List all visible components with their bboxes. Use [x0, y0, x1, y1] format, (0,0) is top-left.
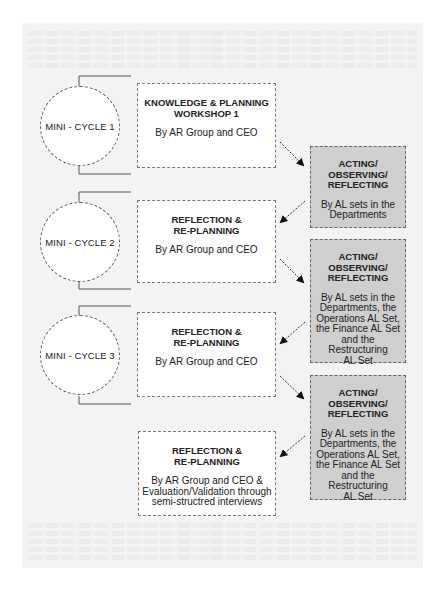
acting-box-3: ACTING/ OBSERVING/ REFLECTING By AL sets… — [310, 375, 406, 500]
sub-line: and the Restructuring — [311, 335, 405, 356]
planning-box-1: KNOWLEDGE & PLANNING WORKSHOP 1 By AR Gr… — [137, 83, 276, 168]
title-line: RE-PLANNING — [138, 226, 275, 237]
planning-box-3-sub: By AR Group and CEO — [138, 357, 275, 368]
sub-line: Departments, the — [311, 303, 405, 314]
title-line: REFLECTING — [311, 409, 405, 420]
sub-line: AL Set — [311, 492, 405, 503]
acting-box-1: ACTING/ OBSERVING/ REFLECTING By AL sets… — [310, 146, 406, 228]
sub-line: AL Set — [311, 356, 405, 367]
mini-cycle-2-circle: MINI - CYCLE 2 — [40, 202, 120, 282]
sub-line: the Finance AL Set — [311, 460, 405, 471]
planning-box-2: REFLECTION & RE-PLANNING By AR Group and… — [137, 200, 276, 283]
mini-cycle-2-label: MINI - CYCLE 2 — [45, 237, 115, 248]
planning-box-1-title: KNOWLEDGE & PLANNING WORKSHOP 1 — [138, 98, 275, 119]
sub-line: By AR Group and CEO & — [139, 476, 275, 487]
acting-box-3-sub: By AL sets in the Departments, the Opera… — [311, 429, 405, 503]
title-line: KNOWLEDGE & PLANNING — [138, 98, 275, 109]
faded-background-text-bottom — [22, 520, 423, 563]
planning-box-1-sub: By AR Group and CEO — [138, 128, 275, 139]
title-line: RE-PLANNING — [139, 457, 275, 468]
sub-line: the Finance AL Set — [311, 324, 405, 335]
planning-box-2-title: REFLECTION & RE-PLANNING — [138, 215, 275, 236]
mini-cycle-1-label: MINI - CYCLE 1 — [45, 121, 115, 132]
title-line: ACTING/ — [311, 252, 405, 263]
planning-box-4-title: REFLECTION & RE-PLANNING — [139, 446, 275, 467]
title-line: REFLECTING — [311, 273, 405, 284]
mini-cycle-1-circle: MINI - CYCLE 1 — [40, 86, 120, 166]
title-line: REFLECTION & — [139, 446, 275, 457]
acting-box-1-title: ACTING/ OBSERVING/ REFLECTING — [311, 159, 405, 191]
planning-box-3-title: REFLECTION & RE-PLANNING — [138, 327, 275, 348]
planning-box-3: REFLECTION & RE-PLANNING By AR Group and… — [137, 312, 276, 397]
mini-cycle-3-circle: MINI - CYCLE 3 — [40, 315, 120, 395]
title-line: ACTING/ — [311, 388, 405, 399]
sub-line: Departments, the — [311, 439, 405, 450]
planning-box-4: REFLECTION & RE-PLANNING By AR Group and… — [138, 431, 276, 516]
faded-background-text — [22, 28, 423, 71]
planning-box-4-sub: By AR Group and CEO & Evaluation/Validat… — [139, 476, 275, 508]
acting-box-3-title: ACTING/ OBSERVING/ REFLECTING — [311, 388, 405, 420]
title-line: ACTING/ — [311, 159, 405, 170]
sub-line: Departments — [311, 210, 405, 221]
acting-box-1-sub: By AL sets in the Departments — [311, 200, 405, 221]
title-line: REFLECTION & — [138, 327, 275, 338]
acting-box-2-title: ACTING/ OBSERVING/ REFLECTING — [311, 252, 405, 284]
sub-line: and the Restructuring — [311, 471, 405, 492]
acting-box-2: ACTING/ OBSERVING/ REFLECTING By AL sets… — [310, 239, 406, 363]
sub-line: semi-structred interviews — [139, 497, 275, 508]
title-line: REFLECTING — [311, 180, 405, 191]
title-line: WORKSHOP 1 — [138, 109, 275, 120]
acting-box-2-sub: By AL sets in the Departments, the Opera… — [311, 293, 405, 367]
title-line: RE-PLANNING — [138, 338, 275, 349]
mini-cycle-3-label: MINI - CYCLE 3 — [45, 350, 115, 361]
planning-box-2-sub: By AR Group and CEO — [138, 245, 275, 256]
title-line: REFLECTION & — [138, 215, 275, 226]
